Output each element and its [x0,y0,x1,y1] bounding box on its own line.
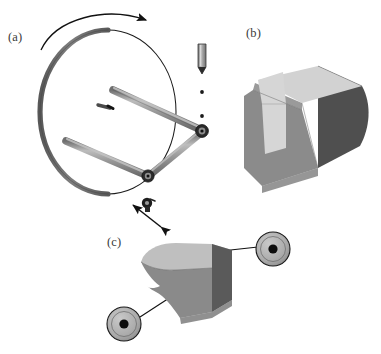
panel-c-group [107,232,290,341]
small-fastener [142,198,155,212]
alignment-dot-upper [200,90,204,94]
block-c-side-dark [212,244,232,312]
pulley-lower-left [107,307,141,341]
figure-container: (a) (b) (c) [0,0,381,354]
panel-a-group [40,14,208,212]
joint-lower [142,170,154,182]
alignment-dot-lower [200,114,204,118]
pulley-upper-right [256,232,290,266]
panel-label-b: (b) [246,26,261,41]
figure-canvas [0,0,381,354]
panel-label-c: (c) [107,235,121,250]
exploded-pin [198,44,206,74]
panel-b-group [244,66,369,193]
joint-right [196,125,209,138]
panel-label-a: (a) [8,30,22,45]
